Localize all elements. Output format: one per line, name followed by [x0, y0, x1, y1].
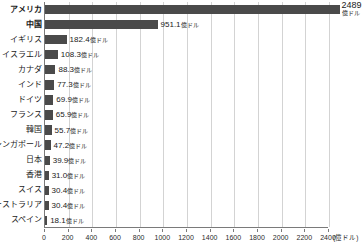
- bar: [45, 186, 49, 195]
- x-axis-tick-label: 200: [62, 233, 74, 242]
- bar-row: 韓国55.7億ドル: [45, 123, 328, 138]
- category-label: オーストラリア: [0, 200, 42, 210]
- bar: [45, 140, 51, 149]
- x-axis-tick-label: 1600: [226, 233, 242, 242]
- bar-row: インド77.3億ドル: [45, 77, 328, 92]
- x-axis-tick-label: 1400: [202, 233, 218, 242]
- bar: [45, 156, 50, 165]
- bar-row: シンガポール47.2億ドル: [45, 138, 328, 153]
- bar-value-label: 39.9億ドル: [53, 156, 87, 166]
- bar-value-label: 182.4億ドル: [70, 35, 108, 45]
- category-label: イスラエル: [2, 50, 42, 60]
- bar: [45, 95, 53, 104]
- bar-value-label: 65.9億ドル: [56, 110, 90, 120]
- bar-value-label: 55.7億ドル: [55, 126, 89, 136]
- bar-value-label: 30.4億ドル: [52, 186, 86, 196]
- category-label: アメリカ: [10, 5, 42, 15]
- category-label: フランス: [10, 110, 42, 120]
- x-axis-tick-label: 600: [109, 233, 121, 242]
- category-label: カナダ: [18, 65, 42, 75]
- bar-row: 香港31.0億ドル: [45, 168, 328, 183]
- bar: [45, 201, 49, 210]
- category-label: ドイツ: [18, 95, 42, 105]
- bar-row: 中国951.1億ドル: [45, 17, 328, 32]
- bar-row: フランス65.9億ドル: [45, 107, 328, 122]
- bar: [45, 5, 340, 14]
- x-axis-tick: [139, 229, 140, 232]
- bar-value-label: 18.1億ドル: [50, 216, 84, 226]
- category-label: スペイン: [11, 215, 42, 225]
- bar-row: スイス30.4億ドル: [45, 183, 328, 198]
- x-axis-tick: [115, 229, 116, 232]
- bar-value-label: 47.2億ドル: [54, 141, 88, 151]
- x-axis-tick-label: 2000: [273, 233, 289, 242]
- bar-row: アメリカ2489億ドル: [45, 2, 328, 17]
- x-axis-tick-label: 1800: [249, 233, 265, 242]
- x-axis-tick: [304, 229, 305, 232]
- bar: [45, 216, 47, 225]
- bar-row: オーストラリア30.4億ドル: [45, 198, 328, 213]
- category-label: スイス: [18, 185, 42, 195]
- x-axis-tick-label: 400: [85, 233, 97, 242]
- bar: [45, 50, 58, 59]
- x-axis-tick: [233, 229, 234, 232]
- x-axis-tick: [91, 229, 92, 232]
- x-axis-tick: [162, 229, 163, 232]
- category-label: イギリス: [10, 35, 42, 45]
- bar: [45, 80, 54, 89]
- category-label: インド: [18, 80, 42, 90]
- bar-row: カナダ88.3億ドル: [45, 62, 328, 77]
- category-label: シンガポール: [0, 140, 42, 150]
- bar: [45, 65, 55, 74]
- category-label: 日本: [26, 155, 42, 165]
- bar: [45, 110, 53, 119]
- x-axis: (億ドル) 0200400600800100012001400160018002…: [44, 229, 328, 249]
- bar-value-label: 88.3億ドル: [58, 65, 92, 75]
- x-axis-tick: [257, 229, 258, 232]
- x-axis-tick-label: 2200: [297, 233, 313, 242]
- bar-rows: アメリカ2489億ドル中国951.1億ドルイギリス182.4億ドルイスラエル10…: [45, 2, 328, 227]
- bar: [45, 35, 67, 44]
- bar-value-label: 31.0億ドル: [52, 171, 86, 181]
- x-axis-tick-label: 800: [133, 233, 145, 242]
- bar-row: ドイツ69.9億ドル: [45, 92, 328, 107]
- plot-area: アメリカ2489億ドル中国951.1億ドルイギリス182.4億ドルイスラエル10…: [44, 2, 328, 228]
- bar-value-label: 108.3億ドル: [61, 50, 99, 60]
- x-axis-tick-label: 1000: [155, 233, 171, 242]
- bar-row: イギリス182.4億ドル: [45, 32, 328, 47]
- bar-row: スペイン18.1億ドル: [45, 213, 328, 228]
- x-axis-tick: [210, 229, 211, 232]
- bar-row: イスラエル108.3億ドル: [45, 47, 328, 62]
- x-axis-tick: [44, 229, 45, 232]
- bar: [45, 171, 49, 180]
- x-axis-tick-label: 1200: [178, 233, 194, 242]
- gridline: [329, 2, 330, 227]
- x-axis-tick: [68, 229, 69, 232]
- bar-value-label: 2489億ドル: [342, 1, 362, 17]
- bar-value-label: 77.3億ドル: [57, 80, 91, 90]
- x-axis-tick: [328, 229, 329, 232]
- bar: [45, 20, 158, 29]
- category-label: 中国: [26, 20, 42, 30]
- x-axis-tick: [186, 229, 187, 232]
- bar-value-label: 30.4億ドル: [52, 201, 86, 211]
- x-axis-tick-label: 0: [42, 233, 46, 242]
- category-label: 韓国: [26, 125, 42, 135]
- bar-value-label: 951.1億ドル: [161, 20, 199, 30]
- x-axis-tick: [281, 229, 282, 232]
- x-axis-tick-label: 2400: [320, 233, 336, 242]
- bar-row: 日本39.9億ドル: [45, 153, 328, 168]
- bar-value-label: 69.9億ドル: [56, 95, 90, 105]
- x-axis-unit-label: (億ドル): [333, 233, 358, 242]
- bar: [45, 125, 52, 134]
- category-label: 香港: [26, 170, 42, 180]
